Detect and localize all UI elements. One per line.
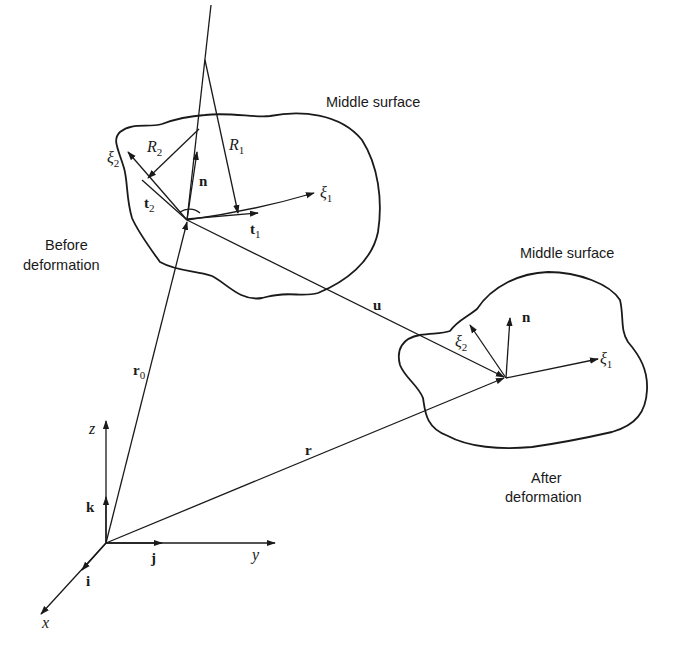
y-axis-label: y [250,546,260,564]
R2-label: R2 [146,138,162,158]
xi2-vector-after [470,325,506,378]
u-displacement-vector [187,220,504,377]
r0-label: r0 [133,362,146,381]
r0-position-vector [106,222,187,543]
right-angle-mark [180,209,200,213]
n-normal-vector-after [506,318,510,378]
xi1-coordinate-line-before [187,193,314,220]
before-deformation-label-line2: deformation [23,257,100,273]
xi1-vector-after [506,359,598,378]
r-label: r [305,442,312,458]
n-label-before: n [199,173,208,189]
k-label: k [86,499,95,515]
xi2-label-after: ξ2 [455,333,467,353]
x-axis-label: x [41,614,49,631]
t1-label: t1 [250,221,261,240]
middle-surface-before-label: Middle surface [326,94,420,110]
r-position-vector [106,378,504,543]
xi1-label-before: ξ1 [320,184,332,204]
u-label: u [373,297,381,313]
z-axis-label: z [88,420,96,437]
shell-deformation-diagram: Middle surface Middle surface Before def… [0,0,674,648]
n-label-after: n [522,309,531,325]
before-deformation-label-line1: Before [45,237,88,253]
t2-label: t2 [144,195,155,214]
j-label: j [150,550,156,566]
after-deformation-label-line1: After [531,470,562,486]
xi2-coordinate-line-before [128,152,187,220]
R1-label: R1 [228,136,244,156]
middle-surface-after-label: Middle surface [520,245,614,261]
xi2-label-before: ξ2 [107,149,119,169]
i-unit-vector [82,543,106,570]
xi1-label-after: ξ1 [600,350,612,370]
after-deformation-label-line2: deformation [505,489,582,505]
i-label: i [86,573,90,589]
